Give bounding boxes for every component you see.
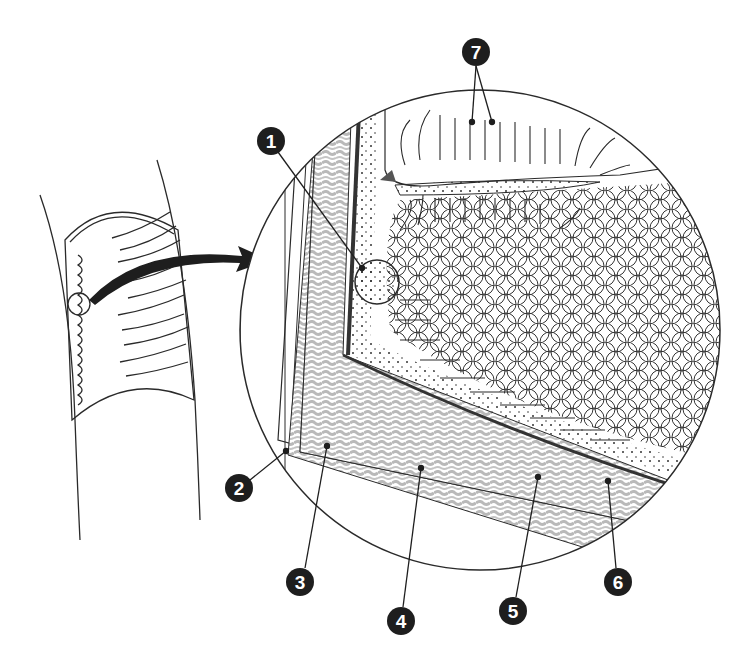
svg-text:2: 2 [234,478,245,499]
magnified-section [240,90,720,620]
svg-text:7: 7 [471,42,482,63]
circular-fold [385,90,720,186]
callout-1: 1 [257,127,285,155]
intestine-diagram: 1 2 3 4 5 6 7 [0,0,736,669]
callout-4: 4 [387,607,415,635]
callout-2: 2 [225,474,253,502]
svg-text:4: 4 [396,611,407,632]
svg-text:6: 6 [613,572,624,593]
intestine-segment [40,160,200,540]
callout-3: 3 [286,568,314,596]
svg-text:3: 3 [295,572,306,593]
svg-text:5: 5 [508,601,519,622]
callout-6: 6 [604,568,632,596]
callout-5: 5 [499,597,527,625]
svg-text:1: 1 [266,131,277,152]
callout-7: 7 [462,38,490,66]
